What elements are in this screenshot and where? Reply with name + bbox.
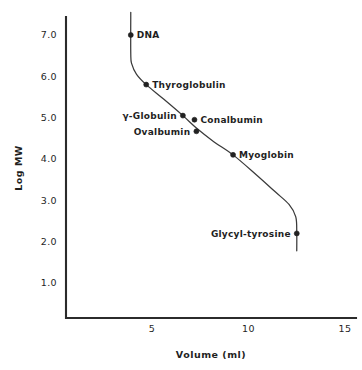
axis-lines [66,17,356,318]
x-tick-label: 15 [339,323,352,334]
x-axis-tick-labels: 51015 [149,323,352,334]
data-point-label: Thyroglobulin [152,80,225,90]
data-point-marker [128,33,133,38]
data-point-label: Glycyl-tyrosine [211,229,291,239]
y-tick-label: 1.0 [41,277,57,288]
y-axis-title: Log MW [13,145,24,191]
chart-canvas: 7.06.05.04.03.02.01.0 51015 DNAThyroglob… [0,0,362,370]
y-tick-label: 3.0 [41,195,57,206]
y-tick-label: 7.0 [41,29,57,40]
x-axis-title: Volume (ml) [176,349,246,360]
data-point-label: Myoglobin [239,150,294,160]
y-axis-tick-labels: 7.06.05.04.03.02.01.0 [41,29,57,288]
data-point-label: γ-Globulin [122,111,176,121]
data-point-labels: DNAThyroglobulinγ-GlobulinConalbuminOval… [122,30,294,238]
data-point-marker [144,82,149,87]
x-tick-label: 10 [242,323,255,334]
data-point-label: DNA [137,30,160,40]
y-tick-label: 4.0 [41,153,57,164]
data-point-marker [192,117,197,122]
y-tick-label: 2.0 [41,236,57,247]
data-point-label: Conalbumin [200,115,263,125]
data-point-marker [180,113,185,118]
data-point-marker [294,231,299,236]
y-tick-label: 5.0 [41,112,57,123]
data-point-label: Ovalbumin [134,127,191,137]
data-point-marker [194,129,199,134]
gel-filtration-chart: 7.06.05.04.03.02.01.0 51015 DNAThyroglob… [0,0,362,370]
axes-group [66,17,356,318]
x-tick-label: 5 [149,323,155,334]
y-tick-label: 6.0 [41,71,57,82]
data-point-marker [231,152,236,157]
